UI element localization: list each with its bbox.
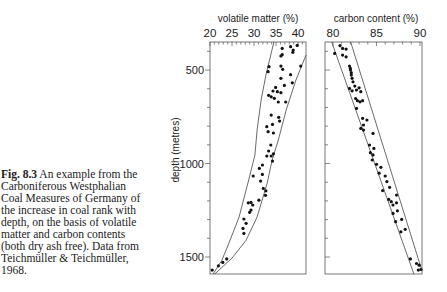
data-point (396, 209, 399, 212)
data-point (348, 87, 351, 90)
data-point (261, 163, 264, 166)
data-point (404, 228, 407, 231)
y-tick-label: 1000 (180, 158, 204, 170)
data-point (270, 154, 273, 157)
y-tick-label: 500 (186, 64, 204, 76)
data-point (387, 198, 390, 201)
data-point (242, 217, 245, 220)
data-point (279, 65, 282, 68)
data-point (371, 153, 374, 156)
data-points (333, 44, 422, 272)
figure: Fig. 8.3 An example from the Carbonifero… (0, 0, 447, 292)
data-point (284, 100, 287, 103)
x-tick-label: 30 (248, 27, 261, 39)
data-point (267, 65, 270, 68)
carbon-content-panel: carbon content (%) 808590 (325, 13, 426, 274)
data-point (270, 95, 273, 98)
y-axis-ticks (325, 51, 330, 257)
data-point (361, 99, 364, 102)
data-point (296, 44, 299, 47)
data-point (270, 114, 273, 117)
y-tick-label: 1500 (180, 251, 204, 263)
data-point (353, 85, 356, 88)
data-point (394, 220, 397, 223)
plot-frame (325, 42, 422, 274)
data-point (359, 90, 362, 93)
data-point (242, 232, 245, 235)
x-axis-title-carbon-content: carbon content (%) (334, 13, 419, 24)
x-tick-label: 20 (204, 27, 217, 39)
data-point (375, 163, 378, 166)
data-point (279, 91, 282, 94)
plot-frame (210, 42, 306, 274)
y-axis-ticks (205, 51, 210, 257)
data-point (385, 180, 388, 183)
data-point (338, 44, 341, 47)
x-tick-label: 85 (370, 27, 383, 39)
data-point (409, 257, 412, 260)
data-point (358, 86, 361, 89)
data-point (273, 97, 276, 100)
data-point (276, 90, 279, 93)
data-point (269, 143, 272, 146)
data-point (271, 123, 274, 126)
data-point (278, 120, 281, 123)
data-point (395, 194, 398, 197)
data-point (283, 84, 286, 87)
data-point (257, 199, 260, 202)
data-point (267, 70, 270, 73)
data-point (272, 131, 275, 134)
data-point (251, 203, 254, 206)
data-point (211, 269, 214, 272)
data-point (345, 55, 348, 58)
x-axis-ticks (210, 42, 302, 46)
data-point (281, 68, 284, 71)
data-point (271, 89, 274, 92)
data-point (279, 54, 282, 57)
data-point (281, 47, 284, 50)
data-point (384, 174, 387, 177)
data-point (265, 154, 268, 157)
data-point (262, 187, 265, 190)
data-point (258, 167, 261, 170)
volatile-matter-panel: volatile matter (%) 20253035405001000150… (180, 13, 306, 274)
data-point (289, 73, 292, 76)
data-point (362, 123, 365, 126)
data-point (291, 51, 294, 54)
data-point (277, 100, 280, 103)
data-point (299, 65, 302, 68)
data-point (279, 77, 282, 80)
data-point (390, 200, 393, 203)
data-point (264, 194, 267, 197)
data-point (277, 116, 280, 119)
data-point (333, 52, 336, 55)
x-axis-title-volatile-matter: volatile matter (%) (218, 13, 299, 24)
data-point (388, 186, 391, 189)
envelope-line-right (351, 42, 422, 271)
data-point (289, 45, 292, 48)
data-point (351, 80, 354, 83)
data-point (271, 160, 274, 163)
data-point (221, 261, 224, 264)
x-tick-label: 40 (292, 27, 305, 39)
data-point (372, 147, 375, 150)
data-point (371, 132, 374, 135)
data-point (355, 107, 358, 110)
x-tick-label: 80 (327, 27, 340, 39)
x-tick-label: 25 (226, 27, 239, 39)
envelope-line-left (332, 42, 414, 274)
data-point (399, 230, 402, 233)
data-point (355, 88, 358, 91)
envelope-line-right (215, 55, 306, 274)
data-point (259, 180, 262, 183)
chart-canvas: depth (metres) volatile matter (%) 20253… (0, 0, 447, 292)
data-point (391, 212, 394, 215)
data-point (365, 118, 368, 121)
data-point (418, 264, 421, 267)
data-point (381, 189, 384, 192)
data-point (417, 269, 420, 272)
x-tick-label: 90 (414, 27, 427, 39)
data-point (291, 81, 294, 84)
envelope-line-left (213, 42, 274, 274)
data-point (267, 149, 270, 152)
